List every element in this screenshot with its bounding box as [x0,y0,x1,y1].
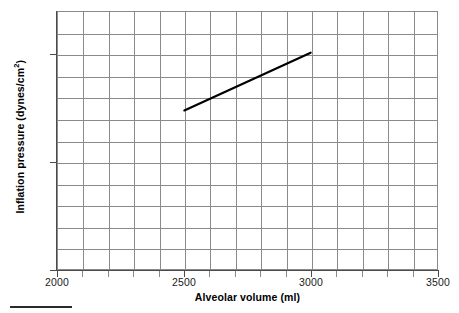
y-axis-title-text: Inflation pressure (dynes/cm [14,68,26,214]
x-axis-tick-label: 3500 [413,276,459,288]
y-axis-tick [50,270,57,271]
y-axis-title-superscript: 2 [12,64,21,68]
x-axis-tick-label: 2000 [32,276,82,288]
x-axis-tick-minor [108,271,109,277]
x-axis-tick-minor [235,271,236,277]
x-axis-tick-minor [336,271,337,277]
x-axis-line [56,270,439,271]
chart-figure: 0500010000 2000250030003500 Alveolar vol… [0,0,459,313]
y-axis-tick [50,54,57,55]
y-axis-line [56,11,57,271]
x-axis-tick-label: 2500 [159,276,209,288]
x-axis-tick-minor [133,271,134,277]
x-axis-tick-minor [387,271,388,277]
y-axis-tick [50,162,57,163]
y-axis-title-tail: ) [14,60,26,64]
x-axis-tick-minor [260,271,261,277]
x-axis-tick-minor [82,271,83,277]
x-axis-tick-minor [209,271,210,277]
x-axis-tick-label: 3000 [286,276,336,288]
plot-area [57,11,438,270]
y-axis-title: Inflation pressure (dynes/cm2) [12,12,26,262]
x-axis-title: Alveolar volume (ml) [57,291,438,303]
data-series-layer [58,12,437,269]
caption-rule [10,306,72,308]
data-line-inflation-pressure [184,53,310,111]
x-axis-tick-minor [362,271,363,277]
